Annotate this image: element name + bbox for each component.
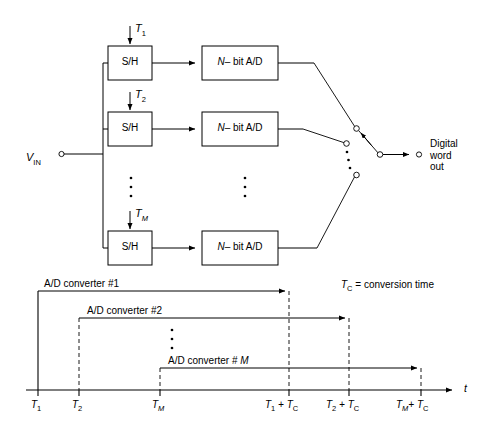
ellipsis-switch-column — [346, 151, 352, 170]
digital-output-terminal — [416, 152, 421, 157]
switch-pivot — [377, 152, 383, 158]
switch-lead-M — [317, 176, 355, 248]
switch-wiper-arrowhead — [361, 133, 372, 146]
tick-label-TM: TM — [152, 399, 164, 413]
switch-lead-1 — [314, 63, 355, 127]
time-axis-label: t — [464, 382, 467, 394]
adc-label-2: N– bit A/D — [202, 122, 278, 133]
digital-output-line2: word — [430, 150, 458, 162]
vin-input-node — [59, 151, 103, 156]
adc-label-M: N– bit A/D — [202, 241, 278, 252]
tick-label-T2-TC: T2 + TC — [326, 399, 359, 413]
switch-contact-2[interactable] — [344, 141, 350, 147]
tick-label-T2: T2 — [72, 399, 82, 413]
vin-label: VIN — [26, 147, 41, 167]
conversion-time-legend: TC = conversion time — [341, 279, 434, 293]
timing-bar-label-2: A/D converter #2 — [87, 305, 162, 316]
sample-hold-label-2: S/H — [108, 122, 152, 133]
switch-contact-M[interactable] — [354, 172, 360, 178]
vin-terminal-circle — [59, 151, 64, 156]
switch-lead-2 — [303, 129, 345, 143]
digital-output-line3: out — [430, 161, 458, 173]
clock-label-M: TM — [135, 203, 148, 223]
timing-bar-label-1: A/D converter #1 — [44, 278, 119, 289]
tick-label-T1-TC: T1 + TC — [265, 399, 298, 413]
switch-contact-1[interactable] — [354, 126, 360, 132]
digital-output-label: Digital word out — [430, 138, 458, 173]
ellipsis-sh-column — [130, 177, 133, 198]
digital-output-line1: Digital — [430, 138, 458, 150]
clock-label-2: T2 — [135, 84, 146, 104]
adc-label-1: N– bit A/D — [202, 56, 278, 67]
ellipsis-adc-column — [244, 177, 247, 198]
timing-bar-label-M: A/D converter # M — [168, 355, 249, 366]
ellipsis-timing-column — [171, 329, 174, 350]
sample-hold-label-1: S/H — [108, 56, 152, 67]
tick-label-TM-TC: TM+ TC — [396, 399, 429, 413]
figure-root: VIN T1 T2 TM S/H S/H S/H N– bit A/D N– b… — [0, 0, 483, 426]
clock-label-1: T1 — [135, 18, 146, 38]
tick-label-T1: T1 — [31, 399, 41, 413]
sample-hold-label-M: S/H — [108, 241, 152, 252]
